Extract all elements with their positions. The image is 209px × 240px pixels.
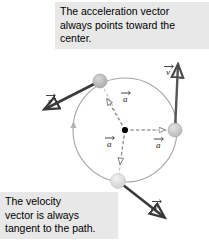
acceleration-label-text-2: a bbox=[156, 140, 161, 150]
path-direction-arrow-icon bbox=[71, 121, 77, 128]
acceleration-vector-top bbox=[107, 99, 125, 130]
ball-bottom bbox=[111, 174, 126, 189]
acceleration-label-top: a bbox=[121, 91, 130, 103]
velocity-label-text-2: v bbox=[166, 67, 170, 77]
acceleration-label-right: a bbox=[154, 137, 163, 149]
velocity-vector-top-left bbox=[45, 81, 100, 109]
ball-right bbox=[168, 123, 182, 137]
velocity-label-text: v bbox=[48, 96, 52, 106]
velocity-label-right: v bbox=[164, 65, 173, 77]
acceleration-label-text-3: a bbox=[107, 139, 112, 149]
acceleration-label-text: a bbox=[123, 94, 128, 104]
figure-canvas: v v v a a a The acceleration vecto bbox=[0, 0, 209, 240]
callout-velocity-note: The velocity vector is always tangent to… bbox=[0, 192, 118, 239]
acceleration-label-bottom: a bbox=[105, 136, 114, 148]
velocity-label-bottom-right: v bbox=[152, 200, 161, 212]
circle-center-point bbox=[122, 127, 128, 133]
velocity-vector-right-up bbox=[175, 65, 178, 130]
velocity-label-text-3: v bbox=[154, 202, 158, 212]
callout-acceleration-note: The acceleration vector always points to… bbox=[55, 2, 209, 49]
ball-top bbox=[93, 74, 107, 88]
acceleration-vector-bottom bbox=[120, 130, 125, 164]
